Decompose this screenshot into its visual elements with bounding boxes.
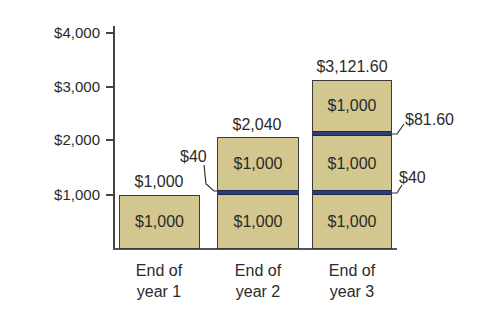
x-label-line: End of (307, 260, 397, 281)
y-tick (106, 139, 113, 141)
segment-label: $1,000 (312, 213, 392, 231)
x-label-line: year 1 (114, 281, 204, 302)
segment-label: $1,000 (312, 97, 392, 115)
interest-stripe (218, 190, 298, 195)
y-tick (106, 86, 113, 88)
annotation-81-60: $81.60 (405, 111, 454, 129)
leader-line (391, 122, 407, 136)
leader-line (200, 164, 220, 194)
total-label-year-2: $2,040 (212, 116, 302, 134)
segment-label: $1,000 (217, 155, 299, 173)
y-tick (106, 194, 113, 196)
y-tick-label: $2,000 (10, 132, 100, 148)
x-label-line: End of (213, 260, 303, 281)
segment-label: $1,000 (217, 213, 299, 231)
x-label-line: year 2 (213, 281, 303, 302)
x-label-line: End of (114, 260, 204, 281)
x-label-year-3: End of year 3 (307, 260, 397, 302)
y-axis (113, 26, 115, 249)
segment-label: $1,000 (312, 155, 392, 173)
total-label-year-3: $3,121.60 (297, 58, 407, 76)
x-label-year-2: End of year 2 (213, 260, 303, 302)
x-label-year-1: End of year 1 (114, 260, 204, 302)
segment-label: $1,000 (119, 213, 200, 231)
leader-line (391, 183, 405, 195)
y-tick-label: $4,000 (10, 25, 100, 41)
y-tick-label: $1,000 (10, 187, 100, 203)
y-tick (106, 32, 113, 34)
x-label-line: year 3 (307, 281, 397, 302)
total-label-year-1: $1,000 (114, 173, 204, 191)
interest-stripe (313, 190, 391, 195)
interest-stripe (313, 131, 391, 136)
y-tick-label: $3,000 (10, 79, 100, 95)
